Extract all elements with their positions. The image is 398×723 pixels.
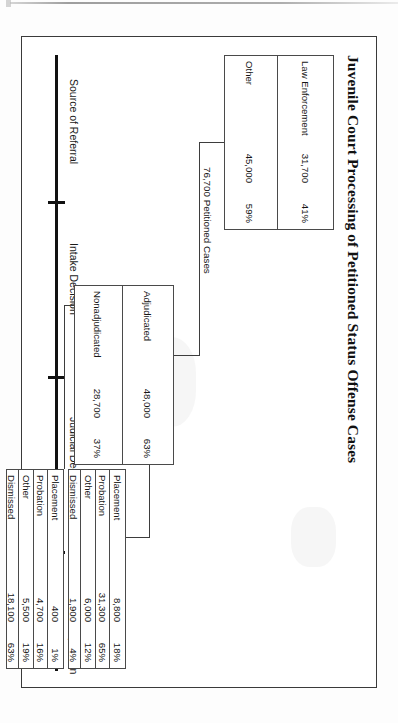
table-row: Other 45,000 59%	[223, 56, 278, 229]
referral-law-enforcement-label: Law Enforcement	[300, 61, 311, 136]
adj-dismissed-count: 1,900	[68, 597, 79, 621]
referral-other-percent: 59%	[245, 203, 256, 222]
table-row: Probation 4,700 16%	[34, 470, 49, 668]
rotated-figure-container: Juvenile Court Processing of Petitioned …	[21, 36, 377, 688]
adj-probation-label: Probation	[97, 475, 108, 516]
table-row: Placement 8,800 18%	[111, 470, 126, 668]
axis-tick-2	[48, 376, 65, 379]
table-row: Nonadjudicated 28,700 37%	[73, 286, 123, 464]
adj-other-count: 6,000	[83, 597, 94, 621]
table-row: Probation 31,300 65%	[96, 470, 111, 668]
nonadj-other-count: 5,500	[21, 597, 32, 621]
referral-source-box: Law Enforcement 31,700 41% Other 45,000 …	[224, 55, 334, 230]
nonadj-other-label: Other	[21, 475, 32, 499]
adj-other-label: Other	[83, 475, 94, 499]
nonadjudicated-dispositions-box: Placement 400 1% Probation 4,700 16% Oth…	[6, 469, 64, 669]
table-row: Dismissed 18,100 63%	[5, 470, 20, 668]
nonadj-probation-percent: 16%	[35, 642, 46, 661]
referral-law-enforcement-count: 31,700	[300, 153, 311, 182]
nonadj-placement-count: 400	[50, 605, 61, 621]
connector-adjudicated-branch	[149, 465, 150, 537]
adj-placement-percent: 18%	[112, 642, 123, 661]
adj-other-percent: 12%	[83, 642, 94, 661]
referral-other-label: Other	[245, 61, 256, 85]
table-row: Other 6,000 12%	[82, 470, 97, 668]
petitioned-cases-label: 76,700 Petitioned Cases	[202, 167, 213, 274]
adj-probation-percent: 65%	[97, 642, 108, 661]
table-row: Law Enforcement 31,700 41%	[278, 56, 333, 229]
adjudicated-dispositions-box: Placement 8,800 18% Probation 31,300 65%…	[68, 469, 126, 669]
decision-nonadjudicated-label: Nonadjudicated	[92, 291, 103, 358]
table-row: Dismissed 1,900 4%	[67, 470, 82, 668]
connector-into-decision-box	[174, 355, 200, 356]
table-row: Other 5,500 19%	[20, 470, 35, 668]
referral-law-enforcement-percent: 41%	[300, 203, 311, 222]
decision-adjudicated-percent: 63%	[143, 438, 154, 457]
nonadj-dismissed-label: Dismissed	[6, 475, 17, 519]
stage-label-source-of-referral: Source of Referral	[68, 79, 80, 164]
connector-nonadjudicated-drop	[64, 305, 74, 306]
decision-nonadjudicated-percent: 37%	[92, 438, 103, 457]
nonadj-other-percent: 19%	[21, 642, 32, 661]
nonadj-probation-label: Probation	[35, 475, 46, 516]
decision-nonadjudicated-count: 28,700	[92, 388, 103, 417]
scan-corner-artifact	[6, 0, 11, 7]
adj-dismissed-label: Dismissed	[68, 475, 79, 519]
figure-title: Juvenile Court Processing of Petitioned …	[344, 55, 362, 463]
nonadj-probation-count: 4,700	[35, 597, 46, 621]
adj-dismissed-percent: 4%	[68, 648, 79, 662]
table-row: Placement 400 1%	[49, 470, 64, 668]
connector-petitioned-trunk	[199, 142, 200, 355]
nonadj-dismissed-percent: 63%	[6, 642, 17, 661]
judicial-decision-box: Adjudicated 48,000 63% Nonadjudicated 28…	[74, 285, 174, 465]
nonadj-placement-percent: 1%	[50, 648, 61, 662]
referral-other-count: 45,000	[245, 153, 256, 182]
adj-placement-label: Placement	[112, 475, 123, 520]
adj-probation-count: 31,300	[97, 592, 108, 621]
table-row: Adjudicated 48,000 63%	[123, 286, 173, 464]
scan-edge-artifact	[10, 2, 398, 4]
adj-placement-count: 8,800	[112, 597, 123, 621]
axis-tick-1	[48, 201, 65, 204]
nonadj-dismissed-count: 18,100	[6, 592, 17, 621]
connector-nonadj-feed-h	[64, 305, 65, 469]
figure-border: Juvenile Court Processing of Petitioned …	[21, 36, 377, 688]
nonadj-placement-label: Placement	[50, 475, 61, 520]
connector-referral-down	[200, 142, 224, 143]
decision-adjudicated-label: Adjudicated	[143, 291, 154, 341]
decision-adjudicated-count: 48,000	[143, 388, 154, 417]
connector-adj-feed	[126, 537, 136, 538]
